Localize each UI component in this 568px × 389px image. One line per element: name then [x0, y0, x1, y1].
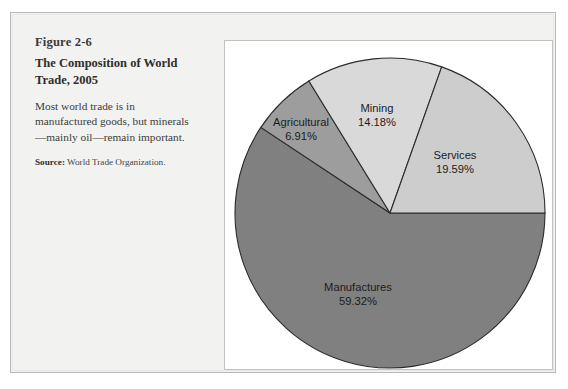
- figure-container: Figure 2-6 The Composition of World Trad…: [10, 12, 556, 373]
- slice-label-agricultural-name: Agricultural: [273, 116, 329, 128]
- figure-page: Figure 2-6 The Composition of World Trad…: [0, 0, 568, 389]
- slice-label-agricultural-value: 6.91%: [285, 130, 317, 142]
- source-text: World Trade Organization.: [67, 157, 165, 167]
- figure-caption-block: Figure 2-6 The Composition of World Trad…: [35, 35, 207, 169]
- figure-description: Most world trade is in manufactured good…: [35, 99, 190, 145]
- figure-title: The Composition of World Trade, 2005: [35, 55, 187, 88]
- source-label: Source:: [35, 157, 65, 167]
- slice-label-mining-value: 14.18%: [358, 116, 396, 128]
- slice-label-services-name: Services: [434, 149, 477, 161]
- figure-number: Figure 2-6: [35, 35, 207, 50]
- pie-chart-panel: Manufactures 59.32% Agricultural 6.91% M…: [224, 40, 553, 370]
- slice-label-manufactures-value: 59.32%: [339, 295, 377, 307]
- pie-chart-svg: Manufactures 59.32% Agricultural 6.91% M…: [225, 41, 552, 369]
- slice-label-services-value: 19.59%: [436, 163, 474, 175]
- slice-label-mining-name: Mining: [361, 102, 394, 114]
- slice-label-manufactures-name: Manufactures: [324, 281, 392, 293]
- figure-source: Source: World Trade Organization.: [35, 157, 195, 169]
